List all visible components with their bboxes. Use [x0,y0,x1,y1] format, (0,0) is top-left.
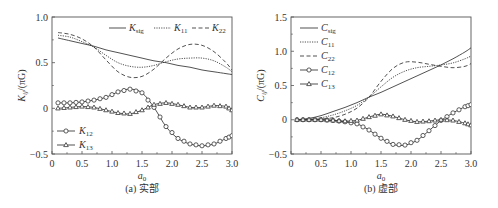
triangle-marker [116,111,121,115]
triangle-marker [224,104,229,108]
circle-marker [469,103,473,107]
triangle-marker [170,101,175,105]
triangle-marker [361,116,366,120]
circle-marker [427,129,431,133]
circle-marker [307,68,311,72]
triangle-marker [104,108,109,112]
legend-label: C22 [321,50,335,63]
circle-marker [176,136,180,140]
panel-caption: (a) 实部 [125,182,159,195]
y-tick-label: −0.5 [269,149,287,160]
y-tick-label: 1.0 [36,12,49,23]
series-ksig [58,38,232,75]
triangle-marker [92,105,97,109]
x-tick-label: 1.0 [106,158,119,169]
triangle-marker [74,105,79,109]
x-axis-label: a0 [138,170,147,183]
circle-marker [170,130,174,134]
x-tick-label: 2.0 [405,158,418,169]
circle-marker [64,129,68,133]
triangle-marker [86,105,91,109]
legend-label: C11 [321,36,335,49]
triangle-marker [427,119,432,123]
circle-marker [164,125,168,129]
triangle-marker [218,104,223,108]
circle-marker [110,93,114,97]
triangle-marker [451,118,456,122]
legend: CsigC11C22C12C13 [300,22,336,91]
circle-marker [188,142,192,146]
legend-label: K13 [78,139,93,152]
circle-marker [421,133,425,137]
triangle-marker [212,103,217,107]
triangle-marker [391,114,396,118]
circle-marker [200,144,204,148]
circle-marker [212,142,216,146]
triangle-marker [194,105,199,109]
circle-marker [62,101,66,105]
x-tick-label: 0 [289,158,294,169]
triangle-marker [355,118,360,122]
x-tick-label: 2.5 [196,158,209,169]
triangle-marker [68,105,73,109]
y-tick-label: 0.5 [36,57,49,68]
chart-panel-a: 00.51.01.52.02.53.0−0.500.51.0a0Kij/(πG)… [16,12,238,196]
x-tick-label: 3.0 [465,158,478,169]
triangle-marker [128,111,133,115]
y-tick-label: 0 [43,103,48,114]
chart-figure: 00.51.01.52.02.53.0−0.500.51.0a0Kij/(πG)… [0,0,498,208]
x-tick-label: 3.0 [226,158,239,169]
circle-marker [409,141,413,145]
triangle-marker [134,110,139,114]
chart-panel-b: 00.51.01.52.02.53.0−0.500.51.01.5a0Cij/(… [255,12,477,196]
circle-marker [182,139,186,143]
circle-marker [86,99,90,103]
x-tick-label: 1.5 [136,158,149,169]
triangle-marker [182,104,187,108]
triangle-marker [343,119,348,123]
triangle-marker [307,82,312,86]
triangle-marker [158,101,163,105]
triangle-marker [349,118,354,122]
plot-frame [291,17,471,154]
panel-caption: (b) 虚部 [364,182,398,195]
legend-label: Csig [321,22,336,35]
legend-label: C13 [321,78,335,91]
triangle-marker [110,109,115,113]
legend-label: K12 [78,125,93,138]
triangle-marker [373,113,378,117]
x-axis-label: a0 [377,170,386,183]
series-c12 [295,103,473,148]
x-tick-label: 1.5 [375,158,388,169]
series-k11 [58,35,232,72]
legend-label: C12 [321,64,335,77]
circle-marker [361,125,365,129]
circle-marker [134,89,138,93]
y-axis-label: Kij/(πG) [16,69,29,102]
y-tick-label: 1.5 [275,12,288,23]
circle-marker [140,91,144,95]
legend-label: K22 [211,22,226,35]
circle-marker [379,136,383,140]
triangle-marker [56,106,61,110]
legend-label: Ksig [128,22,144,35]
triangle-marker [439,117,444,121]
circle-marker [146,98,150,102]
circle-marker [367,128,371,132]
triangle-marker [403,117,408,121]
circle-marker [403,143,407,147]
circle-marker [451,111,455,115]
triangle-marker [122,111,127,115]
triangle-marker [457,119,462,123]
circle-marker [415,138,419,142]
triangle-marker [188,105,193,109]
circle-marker [104,95,108,99]
triangle-marker [146,105,151,109]
triangle-marker [64,143,69,147]
y-tick-label: 0 [282,114,287,125]
y-tick-label: −0.5 [30,149,48,160]
x-tick-label: 0.5 [315,158,328,169]
triangle-marker [409,118,414,122]
x-tick-label: 0 [50,158,55,169]
series-c13 [295,112,474,127]
